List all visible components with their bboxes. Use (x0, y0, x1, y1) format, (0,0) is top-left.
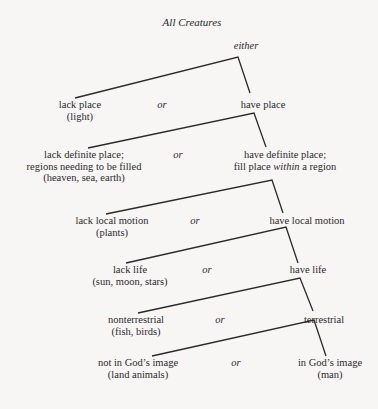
node-subtext: (plants) (76, 227, 149, 239)
branch-level-4 (126, 227, 298, 263)
node-terrestrial: terrestrial (304, 314, 344, 326)
node-text: in God’s image (298, 357, 362, 369)
node-lack-local-motion: lack local motion (plants) (76, 215, 149, 238)
text-part: a region (300, 161, 337, 172)
node-text: have place (241, 99, 286, 111)
or-connector-4: or (202, 264, 211, 276)
node-text: nonterrestrial (108, 314, 164, 326)
node-lack-life: lack life (sun, moon, stars) (92, 264, 167, 287)
node-subtext: (land animals) (98, 369, 178, 381)
branch-level-3 (106, 180, 283, 214)
node-text: lack definite place; (27, 149, 142, 161)
branch-level-1 (75, 57, 250, 98)
node-text: lack place (59, 99, 101, 111)
node-have-life: have life (290, 264, 326, 276)
node-subtext: (light) (59, 111, 101, 123)
diagram-title: All Creatures (163, 17, 222, 29)
node-text: lack local motion (76, 215, 149, 227)
node-lack-definite-place: lack definite place; regions needing to … (27, 149, 142, 184)
or-connector-6: or (231, 357, 240, 369)
node-subtext: regions needing to be filled (27, 161, 142, 173)
emphasis-within: within (273, 161, 299, 172)
node-text: not in God’s image (98, 357, 178, 369)
tree-branches (0, 0, 378, 409)
node-nonterrestrial: nonterrestrial (fish, birds) (108, 314, 164, 337)
or-connector-3: or (190, 215, 199, 227)
node-subtext: (man) (298, 369, 362, 381)
node-have-local-motion: have local motion (269, 215, 344, 227)
branch-level-2 (88, 113, 266, 148)
node-in-gods-image: in God’s image (man) (298, 357, 362, 380)
node-subtext: (heaven, sea, earth) (27, 172, 142, 184)
node-text: lack life (92, 264, 167, 276)
node-not-in-gods-image: not in God’s image (land animals) (98, 357, 178, 380)
node-subtext: fill place within a region (234, 161, 337, 173)
node-text: terrestrial (304, 314, 344, 326)
root-either-label: either (234, 40, 259, 52)
node-lack-place: lack place (light) (59, 99, 101, 122)
branch-level-6 (152, 320, 326, 356)
node-subtext: (sun, moon, stars) (92, 276, 167, 288)
or-connector-5: or (215, 314, 224, 326)
node-have-definite-place: have definite place; fill place within a… (234, 149, 337, 172)
or-connector-1: or (157, 99, 166, 111)
node-have-place: have place (241, 99, 286, 111)
text-part: fill place (234, 161, 274, 172)
node-text: have life (290, 264, 326, 276)
node-text: have local motion (269, 215, 344, 227)
node-text: have definite place; (234, 149, 337, 161)
node-subtext: (fish, birds) (108, 326, 164, 338)
or-connector-2: or (173, 149, 182, 161)
